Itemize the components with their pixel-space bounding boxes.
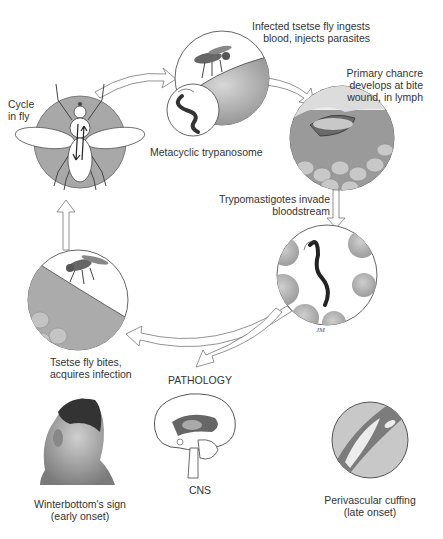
- metacyclic-trypanosome-icon: [167, 84, 219, 136]
- pathology-heading: PATHOLOGY: [160, 374, 240, 386]
- label-line: (early onset): [20, 510, 140, 522]
- label-line: PATHOLOGY: [160, 374, 240, 386]
- label-line: in fly: [8, 110, 34, 122]
- chancre-skin-lesion-icon: [290, 86, 400, 200]
- cycle-arrow-bite-to-fly: [57, 200, 75, 250]
- label-metacyclic-trypanosome: Metacyclic trypanosome: [150, 146, 260, 158]
- label-cycle-in-fly: Cycle in fly: [8, 98, 34, 122]
- label-line: Winterbottom's sign: [20, 498, 140, 510]
- label-line: acquires infection: [50, 368, 132, 380]
- label-line: (late onset): [305, 506, 435, 518]
- label-line: Tsetse fly bites,: [50, 356, 132, 368]
- label-line: Perivascular cuffing: [305, 494, 435, 506]
- label-line: Infected tsetse fly ingests: [240, 20, 370, 32]
- label-line: Metacyclic trypanosome: [150, 146, 260, 158]
- label-bloodstream-invasion: Trypomastigotes invade bloodstream: [200, 193, 330, 217]
- brain-sagittal-icon: [154, 394, 235, 478]
- trypomastigote-in-blood-icon: [267, 225, 377, 335]
- label-line: blood, injects parasites: [240, 32, 370, 44]
- label-primary-chancre: Primary chancre develops at bite wound, …: [320, 67, 423, 103]
- label-cns: CNS: [170, 484, 230, 496]
- perivascular-cuffing-histology-icon: [332, 402, 408, 480]
- artist-signature: JM: [316, 326, 325, 334]
- trypanosome-life-cycle-diagram: Cycle in fly Infected tsetse fly ingests…: [0, 0, 443, 539]
- label-line: develops at bite: [320, 79, 423, 91]
- label-fly-acquires-infection: Tsetse fly bites, acquires infection: [50, 356, 132, 380]
- label-infected-fly-bites: Infected tsetse fly ingests blood, injec…: [240, 20, 370, 44]
- label-line: Trypomastigotes invade: [200, 193, 330, 205]
- label-line: Cycle: [8, 98, 34, 110]
- label-line: bloodstream: [200, 205, 330, 217]
- cycle-arrow-fly-to-bite: [95, 68, 176, 98]
- label-line: wound, in lymph: [320, 91, 423, 103]
- head-neck-lymph-node-icon: [40, 398, 115, 485]
- label-winterbottoms-sign: Winterbottom's sign (early onset): [20, 498, 140, 522]
- label-line: Primary chancre: [320, 67, 423, 79]
- label-line: CNS: [170, 484, 230, 496]
- tsetse-fly-feeding-icon: [25, 250, 130, 360]
- label-perivascular-cuffing: Perivascular cuffing (late onset): [305, 494, 435, 518]
